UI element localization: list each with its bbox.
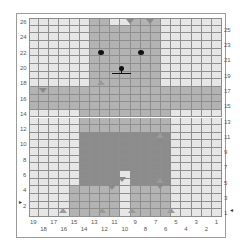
row-label-right: 19 — [224, 73, 231, 79]
stitch-cell — [161, 79, 171, 87]
stitch-cell — [49, 102, 59, 110]
stitch-cell — [100, 148, 110, 156]
stitch-cell — [49, 41, 59, 49]
stitch-cell — [49, 202, 59, 210]
stitch-cell — [49, 33, 59, 41]
stitch-cell — [120, 110, 130, 118]
column-label: 5 — [174, 219, 177, 225]
stitch-cell — [212, 179, 222, 187]
stitch-cell — [161, 72, 171, 80]
stitch-cell — [80, 140, 90, 148]
stitch-cell — [39, 186, 49, 194]
stitch-cell — [100, 33, 110, 41]
stitch-cell — [70, 18, 80, 26]
stitch-cell — [59, 102, 69, 110]
stitch-cell — [212, 79, 222, 87]
stitch-cell — [80, 33, 90, 41]
stitch-cell — [131, 148, 141, 156]
stitch-cell — [212, 194, 222, 202]
stitch-cell — [29, 133, 39, 141]
row-label-left: 12 — [20, 126, 27, 132]
stitch-cell — [202, 118, 212, 126]
stitch-cell — [131, 179, 141, 187]
stitch-cell — [202, 33, 212, 41]
stitch-cell — [110, 140, 120, 148]
stitch-cell — [202, 72, 212, 80]
stitch-cell — [141, 148, 151, 156]
row-label-left: 18 — [20, 80, 27, 86]
column-label: 19 — [30, 219, 37, 225]
stitch-cell — [29, 209, 39, 217]
stitch-cell — [171, 110, 181, 118]
stitch-cell — [39, 209, 49, 217]
stitch-cell — [70, 79, 80, 87]
stitch-cell — [39, 133, 49, 141]
stitch-cell — [110, 148, 120, 156]
stitch-cell — [151, 202, 161, 210]
stitch-cell — [151, 118, 161, 126]
stitch-cell — [49, 49, 59, 57]
stitch-cell — [49, 209, 59, 217]
stitch-cell — [171, 102, 181, 110]
stitch-cell — [49, 87, 59, 95]
stitch-cell — [171, 33, 181, 41]
stitch-cell — [59, 163, 69, 171]
stitch-cell — [161, 125, 171, 133]
stitch-cell — [192, 156, 202, 164]
column-label: 17 — [50, 219, 57, 225]
stitch-cell — [59, 79, 69, 87]
stitch-cell — [131, 163, 141, 171]
stitch-cell — [171, 64, 181, 72]
stitch-cell — [70, 118, 80, 126]
stitch-cell — [192, 140, 202, 148]
stitch-cell — [212, 26, 222, 34]
stitch-cell — [192, 41, 202, 49]
stitch-cell — [80, 87, 90, 95]
stitch-cell — [29, 49, 39, 57]
stitch-cell — [212, 64, 222, 72]
stitch-cell — [29, 33, 39, 41]
stitch-cell — [70, 186, 80, 194]
stitch-cell — [110, 33, 120, 41]
stitch-cell — [120, 194, 130, 202]
stitch-cell — [39, 179, 49, 187]
stitch-cell — [120, 102, 130, 110]
stitch-cell — [110, 125, 120, 133]
stitch-cell — [171, 194, 181, 202]
stitch-cell — [49, 179, 59, 187]
stitch-cell — [80, 49, 90, 57]
stitch-cell — [110, 102, 120, 110]
right-eye-icon — [138, 50, 144, 55]
stitch-cell — [39, 79, 49, 87]
stitch-cell — [70, 110, 80, 118]
stitch-cell — [212, 156, 222, 164]
stitch-cell — [110, 79, 120, 87]
stitch-cell — [131, 186, 141, 194]
stitch-cell — [181, 163, 191, 171]
start-row-right-arrow: ◂ — [230, 207, 233, 213]
stitch-cell — [90, 87, 100, 95]
stitch-cell — [141, 118, 151, 126]
column-label: 9 — [134, 219, 137, 225]
stitch-cell — [70, 41, 80, 49]
column-label: 4 — [184, 226, 187, 232]
stitch-cell — [141, 56, 151, 64]
stitch-cell — [202, 156, 212, 164]
stitch-cell — [70, 26, 80, 34]
stitch-cell — [212, 110, 222, 118]
stitch-cell — [131, 102, 141, 110]
stitch-cell — [120, 95, 130, 103]
stitch-cell — [202, 49, 212, 57]
stitch-cell — [202, 79, 212, 87]
stitch-cell — [181, 186, 191, 194]
stitch-cell — [181, 133, 191, 141]
stitch-cell — [161, 163, 171, 171]
row-label-right: 5 — [224, 180, 227, 186]
row-label-right: 13 — [224, 119, 231, 125]
stitch-cell — [80, 110, 90, 118]
stitch-cell — [59, 110, 69, 118]
stitch-cell — [181, 41, 191, 49]
stitch-cell — [100, 194, 110, 202]
stitch-cell — [59, 125, 69, 133]
stitch-cell — [202, 26, 212, 34]
